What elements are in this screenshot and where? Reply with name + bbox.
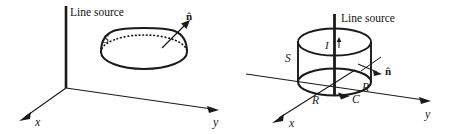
line-source-label-left: Line source xyxy=(70,6,124,18)
line-source-label-right: Line source xyxy=(341,12,395,24)
radius-label-front: R xyxy=(311,94,319,106)
x-axis-arrowhead-right xyxy=(272,114,284,123)
x-axis-label-left: x xyxy=(34,115,41,129)
y-axis-arrowhead-left xyxy=(207,106,219,113)
normal-label-left: n̂ xyxy=(186,10,192,22)
left-panel: Line source S n̂ x y xyxy=(19,6,219,129)
x-axis-left xyxy=(25,88,66,117)
current-arrowhead xyxy=(337,37,342,42)
y-axis-arrowhead-right xyxy=(419,97,431,104)
y-axis-label-left: y xyxy=(212,115,219,129)
current-label-right: I xyxy=(324,39,330,51)
physics-figure: Line source S n̂ x y xyxy=(0,0,451,134)
right-panel: Line source I S n̂ R R C x y xyxy=(246,12,431,130)
normal-arrowhead-right xyxy=(373,70,382,76)
hemisphere-cap-left xyxy=(101,28,187,69)
radius-label-right-side: R xyxy=(361,81,369,93)
x-axis-label-right: x xyxy=(288,116,295,130)
surface-label-left: S xyxy=(103,33,109,45)
surface-label-right: S xyxy=(285,52,291,64)
x-axis-arrowhead-left xyxy=(19,112,31,121)
contour-label-right: C xyxy=(352,93,360,105)
figure-canvas: Line source S n̂ x y xyxy=(0,0,451,134)
equator-dotted-left xyxy=(101,35,187,52)
y-axis-label-right: y xyxy=(424,107,431,121)
normal-label-right: n̂ xyxy=(385,65,391,77)
y-axis-left xyxy=(66,88,212,109)
